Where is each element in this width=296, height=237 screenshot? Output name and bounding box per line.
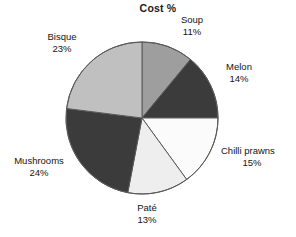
slice-label-mushrooms-value: 24% bbox=[2, 167, 76, 179]
slice-label-pate: Paté 13% bbox=[124, 202, 170, 225]
slice-label-bisque: Bisque 23% bbox=[36, 31, 88, 54]
slice-label-pate-value: 13% bbox=[124, 214, 170, 226]
slice-label-pate-name: Paté bbox=[124, 202, 170, 214]
slice-label-soup-name: Soup bbox=[165, 14, 219, 26]
slice-label-melon-name: Melon bbox=[212, 61, 266, 73]
slice-label-chilli-prawns: Chilli prawns 15% bbox=[221, 145, 295, 168]
slice-label-mushrooms: Mushrooms 24% bbox=[2, 155, 76, 178]
slice-label-bisque-value: 23% bbox=[36, 43, 88, 55]
pie-slice-group bbox=[66, 42, 218, 194]
slice-label-soup: Soup 11% bbox=[165, 14, 219, 37]
slice-label-soup-value: 11% bbox=[165, 26, 219, 38]
slice-label-chilli-prawns-name: Chilli prawns bbox=[221, 145, 295, 157]
pie-slice-mushrooms bbox=[66, 108, 142, 192]
slice-label-bisque-name: Bisque bbox=[36, 31, 88, 43]
slice-label-melon-value: 14% bbox=[212, 73, 266, 85]
slice-label-melon: Melon 14% bbox=[212, 61, 266, 84]
slice-label-chilli-prawns-value: 15% bbox=[221, 157, 283, 169]
slice-label-mushrooms-name: Mushrooms bbox=[2, 155, 76, 167]
pie-chart-figure: Cost % Soup 11% Melon 14% Chilli prawns … bbox=[0, 0, 296, 237]
